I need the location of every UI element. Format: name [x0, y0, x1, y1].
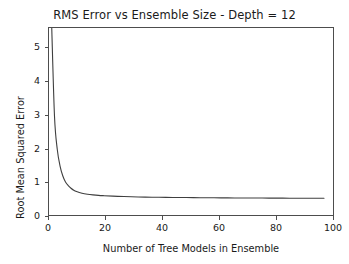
- x-tick-label-80: 80: [261, 222, 291, 233]
- x-tick-label-0: 0: [33, 222, 63, 233]
- y-tick-label-4: 4: [24, 75, 40, 86]
- x-tick-label-40: 40: [147, 222, 177, 233]
- x-tick-label-100: 100: [318, 222, 348, 233]
- y-tick-label-2: 2: [24, 143, 40, 154]
- plot-svg: [49, 28, 335, 217]
- y-tick-label-5: 5: [24, 41, 40, 52]
- x-tick-label-20: 20: [90, 222, 120, 233]
- x-axis-label: Number of Tree Models in Ensemble: [48, 243, 334, 254]
- y-tick-label-0: 0: [24, 210, 40, 221]
- chart-figure: RMS Error vs Ensemble Size - Depth = 12 …: [0, 0, 349, 264]
- series-line-rmse: [52, 28, 324, 198]
- y-axis-label-wrap: Root Mean Squared Error: [4, 40, 18, 200]
- x-tick-label-60: 60: [204, 222, 234, 233]
- chart-title: RMS Error vs Ensemble Size - Depth = 12: [0, 8, 349, 22]
- plot-area: [48, 27, 334, 216]
- y-tick-label-1: 1: [24, 176, 40, 187]
- y-axis-label: Root Mean Squared Error: [15, 78, 26, 238]
- y-tick-label-3: 3: [24, 109, 40, 120]
